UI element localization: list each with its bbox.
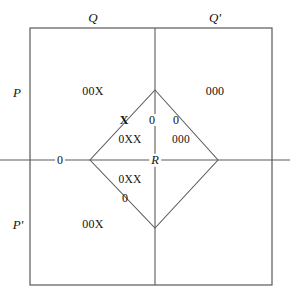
edge-marker-x-upper-left: X [120,114,129,126]
region-label-diamond-upper-right: 000 [172,134,190,146]
axis-label-p: P [13,86,21,99]
region-label-upper-left-outer: 00X [82,85,103,97]
axis-label-q: Q [88,11,97,24]
edge-marker-zero-upper-right: 0 [173,114,179,126]
diagram-lines [0,0,290,299]
edge-marker-zero-horizontal-axis: 0 [55,154,65,166]
region-label-upper-right-outer: 000 [206,85,225,97]
axis-label-q-prime: Q' [209,11,221,24]
region-label-diamond-upper-left: 0XX [119,134,142,146]
axis-label-p-prime: P' [13,218,24,231]
edge-marker-zero-lower-left: 0 [122,192,128,204]
center-label-r: R [149,154,161,167]
region-label-lower-left-outer: 00X [82,218,103,230]
diagram-canvas: Q Q' P P' R 00X 000 00X 0XX 000 0XX X 0 … [0,0,290,299]
edge-marker-zero-vertical: 0 [148,114,156,126]
region-label-diamond-lower-left: 0XX [119,174,142,186]
